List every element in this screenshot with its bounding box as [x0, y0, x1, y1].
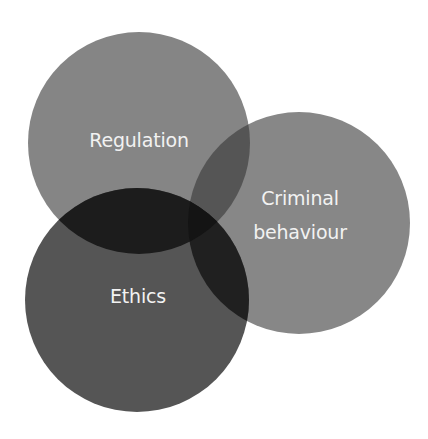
- ethics-label: Ethics: [68, 279, 208, 313]
- criminal-behaviour-label-line2: behaviour: [230, 215, 370, 249]
- regulation-label: Regulation: [69, 123, 209, 157]
- criminal-behaviour-label-line1: Criminal: [230, 181, 370, 215]
